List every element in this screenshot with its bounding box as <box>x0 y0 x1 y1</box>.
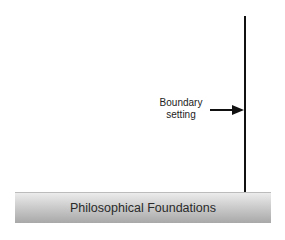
boundary-setting-label: Boundary setting <box>150 97 212 121</box>
arrow-head <box>232 105 244 115</box>
foundation-label: Philosophical Foundations <box>70 201 216 215</box>
boundary-label-line2: setting <box>150 109 212 121</box>
philosophical-foundations-bar: Philosophical Foundations <box>15 192 271 223</box>
boundary-line <box>244 16 246 193</box>
arrow-shaft <box>210 109 234 111</box>
boundary-label-line1: Boundary <box>150 97 212 109</box>
